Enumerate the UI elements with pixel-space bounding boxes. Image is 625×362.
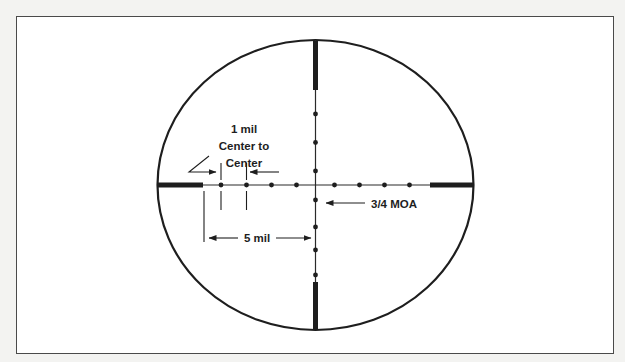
one-mil-label-line1: 1 mil [231, 123, 257, 135]
top-thick-post [313, 41, 318, 90]
one-mil-leader-arrow [189, 156, 216, 172]
one-mil-label-line2: Center to [219, 140, 269, 152]
five-mil-label: 5 mil [244, 232, 270, 244]
one-mil-label-line3: Center [226, 157, 263, 169]
left-thick-post [158, 183, 203, 188]
five-mil-annotation: 5 mil [204, 191, 311, 244]
mil-dot-reticle-diagram: 1 mil Center to Center 3/4 MOA 5 mil [0, 0, 625, 362]
one-mil-annotation: 1 mil Center to Center [189, 123, 279, 210]
dot-size-annotation: 3/4 MOA [326, 198, 417, 210]
right-thick-post [430, 183, 473, 188]
bottom-thick-post [313, 282, 318, 330]
dot-size-label: 3/4 MOA [371, 198, 417, 210]
